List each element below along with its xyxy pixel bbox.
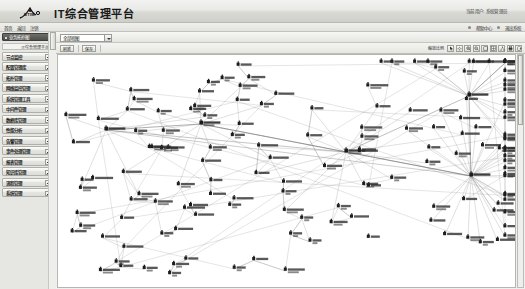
sidebar-item-9[interactable]: 事件处理管理 — [2, 146, 53, 155]
topology-node[interactable] — [201, 158, 221, 162]
grid-icon[interactable] — [490, 45, 497, 52]
topology-node[interactable] — [189, 202, 208, 206]
topology-node[interactable] — [274, 91, 294, 95]
topology-node[interactable] — [79, 222, 95, 229]
topology-node[interactable] — [120, 215, 134, 219]
topology-node[interactable] — [97, 116, 119, 120]
topology-node[interactable] — [461, 131, 480, 135]
topology-node[interactable] — [466, 234, 484, 241]
topology-node[interactable] — [360, 133, 378, 140]
topology-node[interactable] — [429, 217, 445, 221]
topology-node[interactable] — [426, 58, 442, 65]
topology-node[interactable] — [252, 256, 268, 260]
pointer-icon[interactable] — [447, 45, 454, 52]
topology-node[interactable] — [330, 219, 348, 226]
sidebar-item-8[interactable]: 告警管理 — [2, 136, 53, 145]
topology-node[interactable] — [488, 58, 506, 62]
topology-node[interactable] — [91, 175, 113, 179]
zoom-out-icon[interactable] — [473, 45, 480, 52]
topology-node[interactable] — [284, 266, 305, 273]
topology-hub-node[interactable] — [467, 91, 488, 96]
sidebar-item-4[interactable]: 系统管理工具 — [2, 94, 53, 103]
fit-icon[interactable] — [481, 45, 488, 52]
sidebar-item-11[interactable]: 知识库管理 — [2, 167, 53, 176]
topology-node[interactable] — [101, 233, 120, 237]
topology-node[interactable] — [425, 159, 440, 166]
topology-node[interactable] — [306, 132, 322, 136]
sidebar-item-5[interactable]: 中间件管理 — [2, 104, 53, 113]
topology-node[interactable] — [209, 144, 227, 151]
topology-node[interactable] — [168, 270, 181, 277]
topology-node[interactable] — [221, 75, 235, 82]
topology-node[interactable] — [367, 234, 380, 238]
sidebar-item-2[interactable]: 拓扑管理 — [2, 73, 53, 82]
save-button[interactable]: 保存 — [82, 45, 96, 52]
topology-node[interactable] — [463, 68, 477, 75]
topology-node[interactable] — [432, 203, 450, 210]
topology-node[interactable] — [289, 230, 302, 237]
topology-node[interactable] — [64, 112, 86, 119]
export-icon[interactable] — [515, 45, 522, 52]
topology-node[interactable] — [76, 210, 96, 217]
zoom-in-icon[interactable] — [464, 45, 471, 52]
topology-node[interactable] — [134, 128, 147, 135]
topology-node[interactable] — [309, 237, 322, 244]
topology-node[interactable] — [474, 124, 491, 128]
topology-hub-node[interactable] — [104, 125, 125, 130]
topology-node[interactable] — [503, 165, 516, 172]
nav-link-exit[interactable]: 退出系统 — [505, 25, 521, 31]
topology-node[interactable] — [503, 232, 516, 239]
topology-node[interactable] — [366, 82, 388, 89]
print-icon[interactable] — [507, 45, 514, 52]
sidebar-item-10[interactable]: 报表管理 — [2, 157, 53, 166]
topology-node[interactable] — [99, 267, 120, 274]
topology-node[interactable] — [233, 264, 246, 271]
nav-link-help[interactable]: 帮助中心 — [476, 25, 492, 31]
topology-node[interactable] — [283, 207, 304, 214]
topology-graph[interactable] — [58, 55, 516, 288]
topology-node[interactable] — [465, 96, 478, 100]
topology-node[interactable] — [376, 103, 391, 107]
topology-node[interactable] — [260, 101, 274, 108]
topology-node[interactable] — [269, 155, 289, 159]
sidebar-item-0[interactable]: 节点监控 — [2, 52, 53, 61]
topology-node[interactable] — [162, 127, 180, 134]
topology-canvas[interactable] — [57, 54, 516, 288]
canvas-scrollbar-thumb[interactable] — [518, 55, 523, 125]
topology-node[interactable] — [122, 243, 143, 247]
sidebar-scrollbar[interactable] — [48, 32, 56, 289]
sidebar-item-13[interactable]: 系统管理 — [2, 188, 53, 197]
topology-node[interactable] — [462, 196, 477, 200]
topology-node[interactable] — [390, 175, 406, 182]
topology-node[interactable] — [247, 74, 265, 81]
topology-node[interactable] — [427, 144, 440, 148]
topology-node[interactable] — [282, 178, 302, 182]
topology-node[interactable] — [282, 188, 297, 195]
topology-node[interactable] — [479, 239, 494, 246]
topology-node[interactable] — [172, 261, 189, 268]
pan-icon[interactable] — [456, 45, 463, 52]
topology-node[interactable] — [198, 88, 214, 92]
topology-node[interactable] — [239, 83, 258, 90]
topology-node[interactable] — [493, 207, 514, 211]
nav-link-back[interactable]: 返回 — [17, 25, 25, 31]
topology-node[interactable] — [209, 191, 226, 195]
refresh-button[interactable]: 刷新 — [60, 45, 74, 52]
topology-node[interactable] — [323, 163, 342, 170]
topology-node[interactable] — [310, 105, 323, 109]
topology-node[interactable] — [194, 211, 214, 215]
topology-node[interactable] — [203, 112, 217, 119]
topology-node[interactable] — [350, 213, 369, 217]
topology-node[interactable] — [503, 223, 516, 227]
topology-node[interactable] — [129, 87, 149, 91]
topology-node[interactable] — [358, 146, 376, 150]
topology-node[interactable] — [497, 200, 514, 204]
topology-node[interactable] — [157, 108, 172, 115]
sidebar-item-12[interactable]: 流程管理 — [2, 178, 53, 187]
nav-link-logout[interactable]: 注销 — [30, 25, 38, 31]
canvas-scrollbar[interactable] — [517, 54, 524, 288]
topology-node[interactable] — [255, 170, 270, 174]
topology-node[interactable] — [184, 255, 198, 259]
topology-node[interactable] — [133, 96, 153, 103]
sidebar-scrollbar-thumb[interactable] — [50, 32, 56, 50]
